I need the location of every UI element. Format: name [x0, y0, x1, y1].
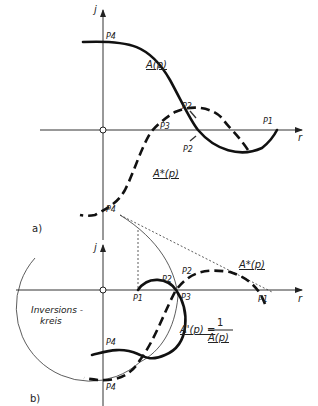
label-A-star-p-a: A*(p): [152, 168, 179, 179]
figure-a: j r P4 A(p) P2 P3 P2 P1 A*(p) P4 a): [32, 4, 303, 240]
panel-label-a: a): [32, 223, 42, 234]
point-P4-top-b: P4: [106, 338, 116, 347]
origin-marker-b: [100, 287, 106, 293]
point-P2-lower-a: P2: [183, 145, 193, 154]
curve-A-p: [83, 42, 277, 153]
fraction-numerator: 1: [217, 317, 223, 328]
point-P1-a: P1: [263, 117, 273, 126]
point-P3-b: P3: [181, 293, 191, 302]
point-P4-bottom-a: P4: [106, 205, 116, 214]
inversion-circle-label-2: kreis: [40, 316, 62, 326]
inversion-circle-label-1: Inversions -: [31, 305, 83, 315]
label-A-p: A(p): [145, 59, 167, 70]
figure-b: j r P1 P1 P2 P2 P3 A*(p) Inversions - kr…: [16, 215, 303, 406]
point-P2-upper-a: P2: [182, 102, 192, 111]
axis-label-r-b: r: [298, 293, 303, 304]
fraction-denominator: A(p): [207, 332, 229, 343]
axis-label-j-b: j: [92, 242, 97, 253]
panel-label-b: b): [30, 393, 40, 404]
point-P1-right-b: P1: [258, 295, 268, 304]
axis-label-j-a: j: [92, 4, 97, 15]
point-P1-left-b: P1: [133, 294, 143, 303]
point-P2-right-b: P2: [182, 267, 192, 276]
axis-label-r-a: r: [298, 132, 303, 143]
point-P4-bottom-b: P4: [106, 383, 116, 392]
point-P2-left-b: P2: [162, 275, 172, 284]
label-A-star-p-b: A*(p): [238, 259, 265, 270]
diagram-canvas: j r P4 A(p) P2 P3 P2 P1 A*(p) P4 a) j r …: [0, 0, 318, 406]
point-P3-a: P3: [160, 122, 170, 131]
inversion-circle: [16, 215, 178, 381]
point-P4-top-a: P4: [106, 32, 116, 41]
origin-marker-a: [100, 127, 106, 133]
